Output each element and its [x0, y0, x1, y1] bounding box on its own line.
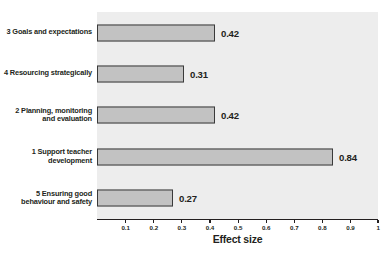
x-axis-tick: [209, 220, 210, 223]
bar: [97, 66, 184, 83]
bar-chart-figure: 3 Goals and expectations 0.42 4 Resourci…: [0, 0, 385, 264]
x-axis-tick-label: 0.9: [346, 224, 355, 231]
category-label: 3 Goals and expectations: [0, 28, 92, 37]
x-axis-tick-label: 0.7: [290, 224, 299, 231]
x-axis-tick-label: 0.1: [121, 224, 130, 231]
x-axis-tick-label: 0.2: [149, 224, 158, 231]
x-axis-tick-label: 0.4: [206, 224, 215, 231]
bar: [97, 24, 215, 41]
bar-value-label: 0.42: [221, 27, 239, 38]
bar-track: 0.42: [97, 12, 385, 53]
category-label: 1 Support teacher development: [0, 148, 92, 165]
category-label: 4 Resourcing strategically: [0, 69, 92, 78]
bar-track: 0.84: [97, 136, 385, 177]
bar-value-label: 0.27: [179, 193, 197, 204]
x-axis-tick: [350, 220, 351, 223]
bar: [97, 107, 215, 124]
chart-row: 5 Ensuring good behaviour and safety 0.2…: [0, 178, 385, 219]
x-axis-title: Effect size: [97, 233, 378, 245]
x-axis-tick-label: 0.8: [318, 224, 327, 231]
chart-row: 3 Goals and expectations 0.42: [0, 12, 385, 53]
x-axis-tick: [125, 220, 126, 223]
bar-track: 0.27: [97, 178, 385, 219]
bar-track: 0.31: [97, 53, 385, 94]
category-label: 2 Planning, monitoring and evaluation: [0, 107, 92, 124]
x-axis-tick: [153, 220, 154, 223]
bar-value-label: 0.42: [221, 110, 239, 121]
chart-row: 4 Resourcing strategically 0.31: [0, 53, 385, 94]
cut-off-caption: [0, 258, 385, 264]
x-axis-tick-label: 0.6: [262, 224, 271, 231]
x-axis-tick: [266, 220, 267, 223]
x-axis-tick: [181, 220, 182, 223]
bar: [97, 148, 333, 165]
x-axis-tick-label: 0.3: [178, 224, 187, 231]
bar: [97, 190, 173, 207]
chart-row: 2 Planning, monitoring and evaluation 0.…: [0, 95, 385, 136]
category-label: 5 Ensuring good behaviour and safety: [0, 190, 92, 207]
bar-value-label: 0.31: [190, 69, 208, 80]
x-axis-tick: [238, 220, 239, 223]
x-axis-tick: [322, 220, 323, 223]
chart-row: 1 Support teacher development 0.84: [0, 136, 385, 177]
x-axis-tick-label: 0.5: [234, 224, 243, 231]
x-axis-tick: [377, 220, 378, 223]
bar-value-label: 0.84: [339, 151, 357, 162]
bar-track: 0.42: [97, 95, 385, 136]
x-axis-tick-label: 1: [376, 224, 379, 231]
x-axis-tick: [294, 220, 295, 223]
